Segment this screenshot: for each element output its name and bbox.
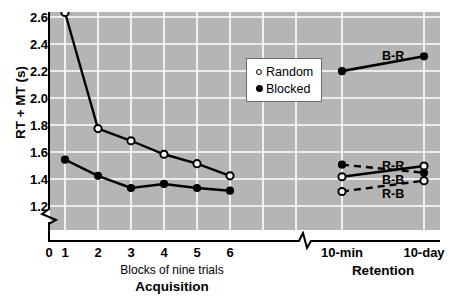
chart-figure: Random Blocked B-R R-R B-B R-B 2.6 2.4 2… <box>0 0 458 301</box>
x-axis-title: Blocks of nine trials <box>120 263 223 277</box>
filled-circle-icon <box>252 85 266 92</box>
x-tick-3: 3 <box>127 246 134 259</box>
x-tick-1: 1 <box>61 246 68 259</box>
series-blocked-acquisition <box>61 156 234 195</box>
y-tick-1-4: 1.4 <box>4 173 48 186</box>
y-tick-2-6: 2.6 <box>4 11 48 24</box>
y-axis-line-upper <box>48 12 50 207</box>
legend: Random Blocked <box>246 58 322 102</box>
x-axis-group-retention: Retention <box>352 263 414 278</box>
y-tick-1-2: 1.2 <box>4 200 48 213</box>
x-axis-line-right <box>312 240 440 242</box>
y-axis-title: RT + MT (s) <box>13 43 28 163</box>
legend-item-blocked: Blocked <box>252 80 313 97</box>
x-axis-line-left <box>48 240 296 242</box>
x-tick-10-min: 10-min <box>321 246 363 259</box>
open-circle-icon <box>252 69 266 75</box>
series-random-acquisition <box>61 12 233 179</box>
series-end-label-b-b: B-B <box>382 173 404 187</box>
x-tick-10-day: 10-day <box>403 246 444 259</box>
x-axis-group-acquisition: Acquisition <box>135 279 209 294</box>
series-end-label-r-r: R-R <box>382 159 404 173</box>
x-tick-0: 0 <box>45 246 52 259</box>
series-end-label-r-b: R-B <box>382 187 404 201</box>
x-tick-4: 4 <box>160 246 167 259</box>
legend-label-random: Random <box>266 65 313 79</box>
legend-item-random: Random <box>252 63 313 80</box>
x-tick-2: 2 <box>94 246 101 259</box>
x-axis-break-icon <box>293 231 315 251</box>
x-tick-5: 5 <box>193 246 200 259</box>
x-tick-6: 6 <box>226 246 233 259</box>
legend-label-blocked: Blocked <box>266 82 310 96</box>
series-end-label-b-r: B-R <box>382 49 404 63</box>
